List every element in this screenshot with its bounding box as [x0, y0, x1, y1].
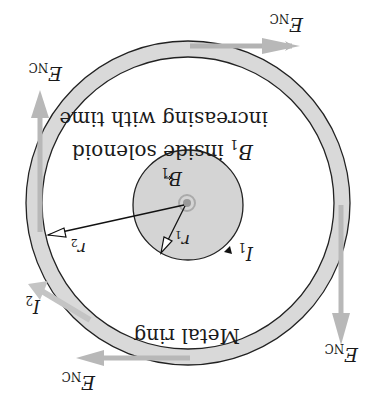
i2-label: I2: [25, 293, 41, 317]
solenoid-caption-line1: B1 inside solenoid: [72, 137, 254, 164]
enc-label-right: ENC: [324, 341, 359, 366]
r2-label: r2: [71, 236, 86, 259]
diagram-canvas: B1 inside solenoid increasing with time …: [0, 0, 375, 402]
solenoid-caption-line2: increasing with time: [59, 107, 268, 131]
ring-caption: Metal ring: [133, 324, 240, 348]
induced-emf-diagram: B1 inside solenoid increasing with time …: [0, 0, 375, 402]
enc-label-top: ENC: [269, 11, 304, 36]
i1-label: I1: [238, 240, 254, 264]
enc-label-bottom: ENC: [61, 369, 96, 394]
i1-current-arrow-icon: [224, 246, 232, 254]
enc-label-left: ENC: [28, 60, 63, 85]
